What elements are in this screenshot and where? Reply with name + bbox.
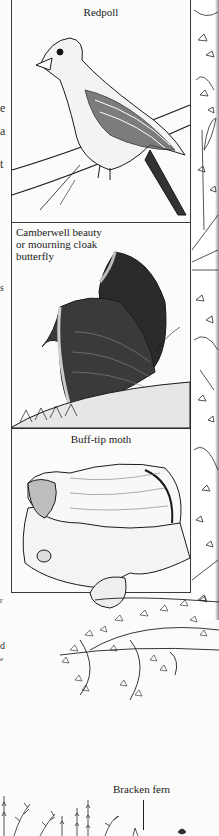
redpoll-illustration-icon — [0, 0, 219, 222]
butterfly-illustration-icon — [0, 222, 219, 432]
leafy-branch-illustration-icon — [0, 590, 219, 730]
ground-vegetation-illustration-icon — [0, 786, 219, 836]
